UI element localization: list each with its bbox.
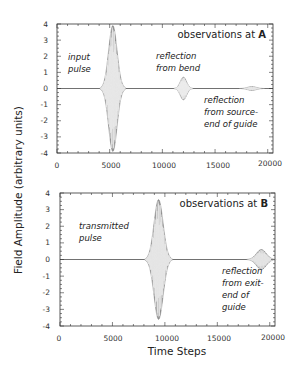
y-tick-label: -1 xyxy=(41,100,49,109)
y-tick-label: 3 xyxy=(43,36,48,45)
annotation-reflection-bend: from bend xyxy=(156,63,201,73)
x-tick-label: 0 xyxy=(57,334,62,343)
y-tick-label: 0 xyxy=(45,255,50,264)
annotation-reflection-exit: from exit- xyxy=(222,278,264,288)
y-tick-label: 2 xyxy=(45,222,50,231)
panel-title-b: observations at B xyxy=(180,198,268,209)
x-axis-label: Time Steps xyxy=(147,345,206,357)
y-tick-label: 2 xyxy=(43,52,48,61)
y-tick-label: -2 xyxy=(41,116,49,125)
y-tick-labels-a: 4 3 2 1 0 -1 -2 -3 -4 xyxy=(41,20,49,158)
annotation-reflection-source: from source- xyxy=(204,107,258,117)
panel-observations-a: 4 3 2 1 0 -1 -2 -3 -4 0 5000 10000 15000… xyxy=(41,20,283,170)
panel-observations-b: 4 3 2 1 0 -1 -2 -3 -4 0 5000 10000 15000… xyxy=(43,189,286,343)
y-tick-labels-b: 4 3 2 1 0 -1 -2 -3 -4 xyxy=(43,189,51,331)
x-tick-labels-a: 0 5000 10000 15000 20000 xyxy=(55,159,283,170)
annotation-input-pulse: input xyxy=(68,52,91,62)
x-tick-label: 5000 xyxy=(103,334,122,343)
y-tick-label: -4 xyxy=(41,149,49,158)
panel-title-a: observations at A xyxy=(177,29,266,40)
annotation-input-pulse: pulse xyxy=(67,64,91,74)
figure: Field Amplitude (arbitrary units) 4 3 2 … xyxy=(0,0,299,372)
annotation-reflection-exit: guide xyxy=(222,302,246,312)
annotation-reflection-source: end of guide xyxy=(204,119,257,129)
annotation-reflection-exit: end of xyxy=(222,290,251,300)
x-tick-label: 10000 xyxy=(155,334,179,343)
x-tick-label: 20000 xyxy=(261,333,285,342)
y-tick-label: 1 xyxy=(45,238,50,247)
annotation-reflection-bend: reflection xyxy=(156,51,196,61)
y-tick-label: 3 xyxy=(45,205,50,214)
x-tick-label: 20000 xyxy=(258,159,282,168)
y-tick-label: 4 xyxy=(45,189,50,198)
x-tick-label: 5000 xyxy=(101,161,120,170)
y-tick-label: 1 xyxy=(43,68,48,77)
y-tick-label: -4 xyxy=(43,322,51,331)
y-tick-label: -3 xyxy=(43,305,51,314)
annotation-reflection-source: reflection xyxy=(204,95,244,105)
annotation-reflection-exit: reflection xyxy=(222,266,262,276)
x-tick-label: 0 xyxy=(55,161,60,170)
y-tick-label: -1 xyxy=(43,272,51,281)
x-tick-label: 15000 xyxy=(207,334,231,343)
y-axis-label: Field Amplitude (arbitrary units) xyxy=(12,106,24,274)
y-tick-label: -3 xyxy=(41,132,49,141)
y-tick-label: -2 xyxy=(43,288,51,297)
x-tick-labels-b: 0 5000 10000 15000 20000 xyxy=(57,333,286,343)
waveform-a xyxy=(57,26,273,152)
y-tick-label: 0 xyxy=(43,84,48,93)
annotation-transmitted-pulse: pulse xyxy=(78,233,102,243)
y-tick-label: 4 xyxy=(43,20,48,29)
annotation-transmitted-pulse: transmitted xyxy=(79,221,129,231)
x-tick-label: 15000 xyxy=(206,161,230,170)
x-tick-label: 10000 xyxy=(152,161,176,170)
